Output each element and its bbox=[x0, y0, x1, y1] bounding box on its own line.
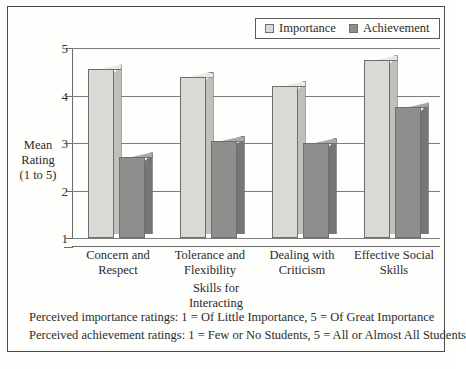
legend-label-importance: Importance bbox=[279, 22, 336, 35]
bar-achievement-2 bbox=[211, 141, 237, 238]
dark-gray-swatch-icon bbox=[349, 24, 358, 33]
gridline-5 bbox=[72, 48, 440, 49]
bar-side-face bbox=[237, 137, 245, 234]
bar-front-face bbox=[364, 60, 390, 238]
bar-side-face bbox=[421, 103, 429, 234]
bar-front-face bbox=[303, 143, 329, 238]
light-gray-swatch-icon bbox=[265, 24, 274, 33]
bar-front-face bbox=[88, 69, 114, 238]
chart-floor bbox=[64, 238, 440, 247]
y-tick-label-2: 2 bbox=[62, 184, 69, 197]
y-tick-label-4: 4 bbox=[62, 89, 69, 102]
x-category-label-4: Effective SocialSkills bbox=[339, 248, 449, 277]
legend-entry-achievement: Achievement bbox=[349, 22, 430, 35]
bar-front-face bbox=[119, 157, 145, 238]
bar-front-face bbox=[180, 77, 206, 239]
bar-importance-4 bbox=[364, 60, 390, 238]
bar-front-face bbox=[272, 86, 298, 238]
bar-achievement-1 bbox=[119, 157, 145, 238]
bar-importance-2 bbox=[180, 77, 206, 239]
legend-label-achievement: Achievement bbox=[363, 22, 430, 35]
x-axis-title: Skills forInteracting bbox=[151, 281, 281, 310]
y-tick-label-5: 5 bbox=[62, 42, 69, 55]
bar-achievement-4 bbox=[395, 107, 421, 238]
floor-front-edge bbox=[72, 246, 440, 247]
bar-front-face bbox=[395, 107, 421, 238]
y-axis-title: MeanRating(1 to 5) bbox=[6, 138, 70, 183]
bar-side-face bbox=[145, 153, 153, 234]
bar-achievement-3 bbox=[303, 143, 329, 238]
chart-legend: Importance Achievement bbox=[255, 18, 440, 39]
bar-side-face bbox=[329, 139, 337, 234]
plot-area: 12345 bbox=[72, 48, 440, 238]
bar-importance-3 bbox=[272, 86, 298, 238]
legend-entry-importance: Importance bbox=[265, 22, 336, 35]
footnote-importance: Perceived importance ratings: 1 = Of Lit… bbox=[29, 310, 434, 325]
footnote-achievement: Perceived achievement ratings: 1 = Few o… bbox=[29, 328, 466, 343]
bar-importance-1 bbox=[88, 69, 114, 238]
bar-front-face bbox=[211, 141, 237, 238]
